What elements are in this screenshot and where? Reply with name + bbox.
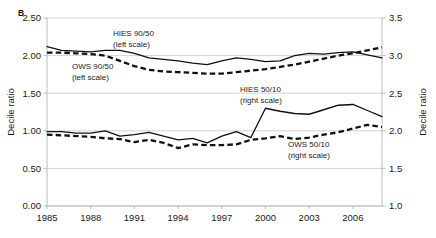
x-tick-label: 1991 [124,212,145,223]
series-annotation-label: OWS 90/50 [72,62,114,71]
x-tick-label: 1994 [168,212,189,223]
y-tick-label: 1.50 [23,88,42,99]
x-tick-label: 1985 [36,212,57,223]
y2-tick-label: 2.0 [389,125,402,136]
series-annotation-label: OWS 50/10 [288,140,330,149]
y-tick-label: 2.50 [23,12,42,23]
series-annotation-label: HIES 90/50 [113,29,154,38]
chart-figure: 19851988199119941997200020032006 0.000.5… [0,0,436,238]
series-annotation-scale: (right scale) [288,151,330,160]
series-line-hies-50-10 [47,104,382,142]
y-tick-label: 0.50 [23,163,42,174]
x-tick-label: 2000 [255,212,276,223]
left-axis-title: Decile ratio [5,88,16,136]
y2-tick-label: 1.5 [389,163,402,174]
y2-tick-label: 2.5 [389,88,402,99]
x-tick-label: 2003 [299,212,320,223]
y-tick-label: 1.00 [23,125,42,136]
x-tick-label: 2006 [342,212,363,223]
right-axis-title: Decile ratio [417,88,428,136]
series-line-ows-50-10 [47,125,382,148]
x-tick-labels: 19851988199119941997200020032006 [36,212,363,223]
series-annotation-label: HIES 50/10 [240,85,281,94]
series-annotation-scale: (left scale) [113,40,150,49]
x-tick-label: 1988 [80,212,101,223]
y2-tick-label: 3.5 [389,12,402,23]
y2-tick-label: 3.0 [389,50,402,61]
series-annotation-scale: (right scale) [240,96,282,105]
series-annotation-scale: (left scale) [72,73,109,82]
y-tick-label: 0.00 [23,200,42,211]
y-tick-label: 2.00 [23,50,42,61]
y2-tick-label: 1.0 [389,200,402,211]
decile-ratio-line-chart: 19851988199119941997200020032006 0.000.5… [0,0,436,238]
gridlines-group [47,18,382,206]
x-tick-label: 1997 [211,212,232,223]
y-left-tick-labels: 0.000.501.001.502.002.50 [23,12,42,211]
y-right-tick-labels: 1.01.52.02.53.03.5 [389,12,402,211]
panel-label: B [18,8,24,18]
axes-group [44,18,386,209]
